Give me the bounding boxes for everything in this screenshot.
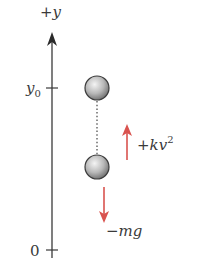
- gravity-force-arrow: [99, 187, 109, 223]
- falling-ball-diagram: +y y0 0 +kv2 −mg: [0, 0, 202, 265]
- axis-label-plus-y: +y: [40, 3, 62, 21]
- label-y0: y0: [25, 79, 41, 99]
- drag-force-arrow: [122, 124, 132, 160]
- gravity-force-label: −mg: [106, 222, 142, 240]
- drag-force-label: +kv2: [137, 134, 174, 154]
- ball-initial-position: [85, 76, 109, 100]
- label-zero: 0: [30, 242, 40, 260]
- ball-current-position: [85, 155, 109, 179]
- y-axis: [46, 32, 58, 258]
